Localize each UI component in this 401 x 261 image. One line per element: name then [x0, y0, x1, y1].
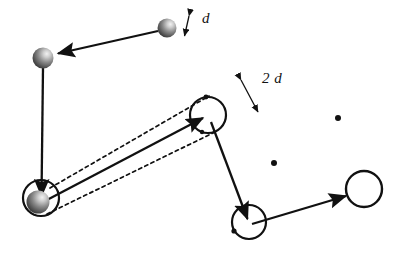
arrow-top-left-to-bottom-left [42, 68, 44, 196]
ellipsis-dot-lower [271, 160, 277, 166]
figure-canvas: d 2 d [0, 0, 401, 261]
sphere-top-left [33, 48, 54, 69]
sphere-bottom-left [27, 191, 50, 214]
dashed-guide-lower [47, 131, 217, 214]
circle-center [190, 97, 226, 133]
perimeter-dot-center-top [204, 95, 209, 100]
arrow-bottom-center-to-right [252, 196, 346, 224]
arrow-bottom-left-to-center [45, 118, 203, 201]
measure-d-arrow [185, 16, 190, 36]
measure-2d-arrow [241, 80, 258, 112]
perimeter-dot-bottom-center [231, 228, 236, 233]
ellipsis-dot-upper [335, 115, 341, 121]
arrow-top-right-to-top-left [58, 31, 158, 54]
sphere-top-right [158, 19, 177, 38]
diagram-svg [0, 0, 401, 261]
label-2d: 2 d [262, 70, 282, 87]
circle-right [346, 171, 382, 207]
perimeter-dot-center-lower [200, 130, 204, 134]
label-d: d [202, 10, 210, 27]
arrow-center-to-bottom-center [211, 122, 248, 219]
